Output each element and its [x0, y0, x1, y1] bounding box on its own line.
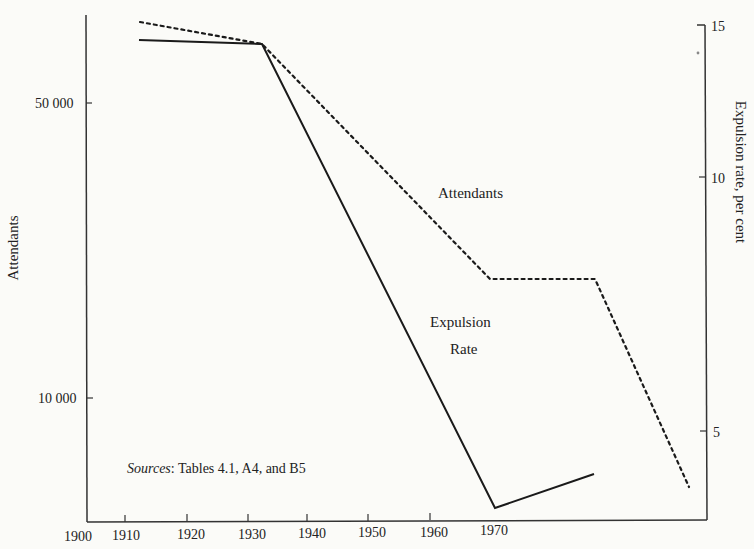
y-right-label-5: 5: [713, 425, 720, 440]
y-right-title: Expulsion rate, per cent: [733, 101, 749, 244]
svg-text:1940: 1940: [298, 526, 326, 541]
annotation-rate: Rate: [450, 341, 478, 357]
y-left-title: Attendants: [5, 215, 21, 280]
y-axis-left: [86, 15, 87, 522]
svg-text:1910: 1910: [112, 528, 140, 543]
svg-text:1930: 1930: [238, 527, 266, 542]
svg-text:1960: 1960: [420, 525, 448, 540]
series-attendants-line: [140, 22, 689, 487]
series-expulsion-rate-line: [139, 40, 594, 508]
y-left-label-10000: 10 000: [38, 391, 77, 406]
y-right-label-10: 10: [711, 171, 725, 186]
y-axis-right: [705, 25, 707, 520]
svg-text:1900: 1900: [64, 529, 92, 544]
annotation-attendants: Attendants: [438, 185, 503, 201]
svg-text:1920: 1920: [177, 527, 205, 542]
y-left-label-50000: 50 000: [35, 96, 74, 111]
sources-note: Sources: Tables 4.1, A4, and B5: [127, 461, 306, 476]
chart: 1900 1910 1920 1930 1940 1950 1960 1970 …: [0, 0, 754, 549]
x-axis: [87, 520, 707, 522]
svg-text:1970: 1970: [480, 523, 508, 538]
y-right-label-15: 15: [711, 19, 725, 34]
annotation-expulsion: Expulsion: [430, 314, 491, 330]
stray-mark: [697, 52, 700, 55]
x-tick-labels: 1900 1910 1920 1930 1940 1950 1960 1970: [64, 523, 508, 544]
svg-text:1950: 1950: [358, 525, 386, 540]
